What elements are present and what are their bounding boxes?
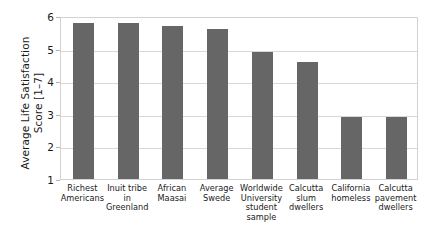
gridline: [61, 116, 417, 117]
y-axis-tick-label: 3: [26, 109, 54, 121]
bar: [252, 52, 273, 179]
plot-area: [60, 17, 418, 180]
y-axis-tick-label: 1: [26, 174, 54, 186]
bar: [118, 23, 139, 179]
bar-chart-figure: Average Life Satisfaction Score [1–7] 12…: [0, 0, 435, 236]
x-axis-tick-label: Calcutta pavement dwellers: [367, 184, 425, 213]
y-axis-tick-label: 5: [26, 44, 54, 56]
bar: [297, 62, 318, 179]
gridline: [61, 148, 417, 149]
y-axis-tick-label: 6: [26, 11, 54, 23]
bar: [73, 23, 94, 179]
y-axis-tick-label: 4: [26, 76, 54, 88]
bar: [162, 26, 183, 179]
gridline: [61, 83, 417, 84]
bar: [341, 117, 362, 179]
bar: [386, 117, 407, 179]
bar: [207, 29, 228, 179]
gridline: [61, 51, 417, 52]
y-axis-tick-label: 2: [26, 141, 54, 153]
y-axis-tick-mark: [56, 180, 60, 181]
